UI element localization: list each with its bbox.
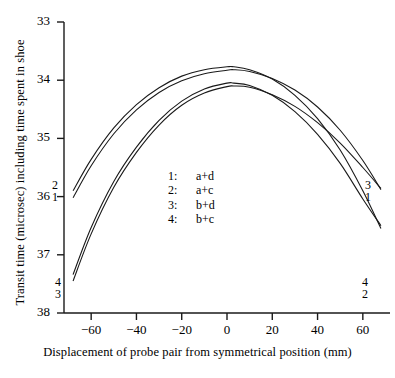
y-axis-ticks bbox=[57, 22, 64, 313]
y-tick-label: 37 bbox=[22, 246, 50, 262]
legend-label: a+d bbox=[196, 169, 214, 183]
x-tick-label: −20 bbox=[162, 322, 202, 338]
curve-endpoint-label-left-lower-b: 3 bbox=[55, 289, 61, 301]
x-tick-label: 40 bbox=[298, 322, 338, 338]
curve-2 bbox=[73, 66, 381, 228]
curve-3 bbox=[73, 86, 381, 281]
legend-key: 4: bbox=[168, 212, 196, 226]
curve-endpoint-label-right-upper-b: 1 bbox=[365, 192, 371, 204]
y-tick-label: 38 bbox=[22, 304, 50, 320]
legend-label: b+d bbox=[196, 198, 215, 212]
legend-label: b+c bbox=[196, 212, 214, 226]
y-tick-label: 36 bbox=[22, 188, 50, 204]
legend-item: 2: a+c bbox=[168, 183, 215, 197]
curve-endpoint-label-left-upper-b: 1 bbox=[52, 192, 58, 204]
y-tick-label: 35 bbox=[22, 129, 50, 145]
x-tick-label: −40 bbox=[116, 322, 156, 338]
legend-key: 3: bbox=[168, 198, 196, 212]
legend-label: a+c bbox=[196, 183, 213, 197]
x-axis-label: Displacement of probe pair from symmetri… bbox=[0, 345, 395, 360]
chart-figure: Transit time (microsec) including time s… bbox=[0, 0, 395, 378]
x-tick-label: 60 bbox=[343, 322, 383, 338]
legend-key: 2: bbox=[168, 183, 196, 197]
legend-item: 3: b+d bbox=[168, 198, 215, 212]
legend-item: 4: b+c bbox=[168, 212, 215, 226]
y-tick-label: 34 bbox=[22, 71, 50, 87]
data-curves bbox=[73, 66, 381, 281]
legend-key: 1: bbox=[168, 169, 196, 183]
chart-legend: 1: a+d 2: a+c 3: b+d 4: b+c bbox=[168, 169, 215, 227]
x-tick-label: 0 bbox=[207, 322, 247, 338]
x-tick-label: 20 bbox=[252, 322, 292, 338]
legend-item: 1: a+d bbox=[168, 169, 215, 183]
x-axis-ticks bbox=[91, 313, 363, 320]
x-tick-label: −60 bbox=[71, 322, 111, 338]
y-axis-label: Transit time (microsec) including time s… bbox=[13, 23, 28, 323]
curve-endpoint-label-right-lower-b: 2 bbox=[362, 289, 368, 301]
y-tick-label: 33 bbox=[22, 13, 50, 29]
